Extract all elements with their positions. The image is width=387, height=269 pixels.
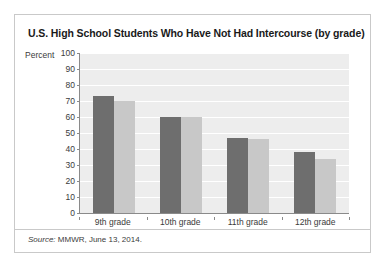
bar-male-1 (114, 101, 135, 213)
y-tick-mark (77, 213, 80, 214)
x-tick-mark (282, 217, 283, 220)
y-tick-label: 40 (66, 144, 75, 154)
y-tick-label: 100 (61, 48, 75, 58)
y-axis-label: Percent (25, 50, 54, 60)
x-tick-mark (349, 217, 350, 220)
bar-female-3 (227, 138, 248, 213)
plot-area-wrapper: 1009080706050403020100 (79, 53, 349, 214)
x-tick-label: 9th grade (79, 217, 147, 227)
bar-groups (80, 53, 349, 213)
chart-card: U.S. High School Students Who Have Not H… (14, 14, 371, 253)
bar-group (282, 53, 349, 213)
source-citation: MMWR, June 13, 2014. (58, 235, 142, 244)
chart-title: U.S. High School Students Who Have Not H… (28, 27, 364, 39)
y-tick-label: 0 (70, 208, 75, 218)
y-tick-label: 80 (66, 80, 75, 90)
bar-female-4 (294, 152, 315, 213)
y-tick-label: 30 (66, 160, 75, 170)
y-tick-label: 50 (66, 128, 75, 138)
y-tick-label: 10 (66, 192, 75, 202)
bar-group (80, 53, 147, 213)
source-divider (15, 229, 370, 230)
y-tick-label: 60 (66, 112, 75, 122)
x-tick-label: 10th grade (147, 217, 215, 227)
plot-area: 1009080706050403020100 (79, 53, 349, 214)
bar-group (147, 53, 214, 213)
bar-male-3 (248, 139, 269, 213)
source-note: Source: MMWR, June 13, 2014. (28, 235, 142, 244)
x-tick-label: 11th grade (214, 217, 282, 227)
y-tick-label: 90 (66, 64, 75, 74)
y-tick-label: 70 (66, 96, 75, 106)
bar-male-4 (315, 159, 336, 213)
bar-female-2 (160, 117, 181, 213)
bar-group (215, 53, 282, 213)
x-tick-mark (147, 217, 148, 220)
x-tick-mark (214, 217, 215, 220)
x-tick-mark (79, 217, 80, 220)
bar-male-2 (181, 117, 202, 213)
y-tick-label: 20 (66, 176, 75, 186)
source-keyword: Source: (28, 235, 56, 244)
gridline (80, 213, 349, 214)
x-axis-labels: 9th grade10th grade11th grade12th grade (79, 217, 349, 227)
bar-female-1 (93, 96, 114, 213)
x-tick-label: 12th grade (282, 217, 350, 227)
